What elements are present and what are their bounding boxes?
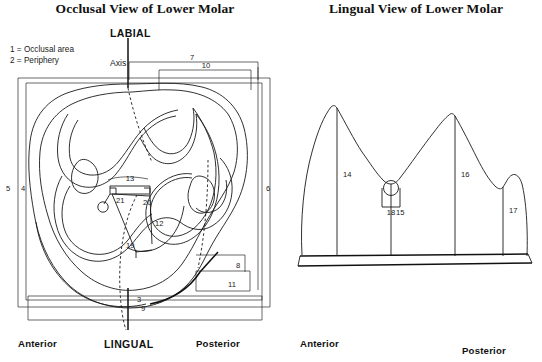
number-14: 14 [343,170,351,179]
cusp-loop-posterior-labial-inner [150,108,216,236]
number-9: 9 [141,304,145,313]
labial-groove-contour [140,114,197,164]
central-fossa-contour-inner [62,186,152,254]
number-12: 12 [155,219,163,228]
occlusal-pit-circle [98,202,108,212]
number-21: 21 [116,196,124,205]
occlusal-view-panel: Occlusal View of Lower Molar 1 = Occlusa… [0,0,290,362]
cervical-line [300,254,528,256]
number-16: 16 [461,170,469,179]
occlusal-diagram: 5 4 6 7 10 8 11 9 3 13 21 20 12 19 [0,0,290,362]
labial-groove-contour-inner [144,108,194,154]
measure-bracket-11 [196,271,250,291]
lingual-diagram: 14 15 16 17 18 [290,0,542,362]
number-18: 18 [387,208,395,217]
number-10: 10 [202,61,210,70]
measure-bracket-10 [159,70,251,90]
number-6: 6 [266,184,270,193]
number-4: 4 [21,184,25,193]
anterior-lingual-cusp-oval [72,159,99,193]
number-15: 15 [396,208,404,217]
lingual-crown-outline [301,106,527,256]
number-13: 13 [126,174,134,183]
number-20: 20 [143,198,151,207]
lingual-view-panel: Lingual View of Lower Molar Anterior Pos… [290,0,542,362]
number-7: 7 [190,53,194,62]
number-19: 19 [126,241,134,250]
measure-bracket-7 [129,62,258,80]
number-17: 17 [509,206,517,215]
number-8: 8 [236,261,240,270]
number-11: 11 [228,280,236,289]
cusp-ridge-anterior-labial-inner [69,110,178,175]
number-5: 5 [6,184,10,193]
number-3: 3 [137,295,141,304]
baseline-right-cap [528,254,532,263]
baseline-left-cap [298,256,300,266]
baseline [298,263,532,266]
posterior-cusp-oval [188,176,215,213]
